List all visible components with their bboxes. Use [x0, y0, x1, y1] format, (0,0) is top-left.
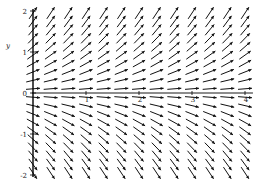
arrowhead-icon — [90, 96, 93, 99]
arrowhead-icon — [214, 96, 217, 99]
arrowhead-icon — [161, 87, 164, 90]
arrowhead-icon — [90, 87, 93, 90]
arrowhead-icon — [231, 96, 234, 99]
y-tick-label: 2 — [23, 8, 27, 16]
arrowhead-icon — [108, 87, 111, 90]
arrowhead-icon — [72, 96, 75, 99]
y-tick-label: 1 — [23, 49, 27, 57]
arrowhead-icon — [196, 87, 199, 90]
arrowhead-icon — [125, 87, 128, 90]
y-axis-label: y — [5, 42, 11, 50]
arrowhead-icon — [178, 96, 181, 99]
arrowhead-icon — [55, 87, 58, 90]
arrowhead-icon — [178, 87, 181, 90]
arrowhead-icon — [214, 87, 217, 90]
arrowhead-icon — [143, 87, 146, 90]
arrowhead-icon — [161, 96, 164, 99]
arrowhead-icon — [249, 87, 252, 90]
direction-field-plot: 1234-2-1012y — [0, 0, 254, 183]
arrowhead-icon — [231, 87, 234, 90]
y-tick-label: 0 — [23, 90, 27, 98]
arrowhead-icon — [125, 96, 128, 99]
x-tick-label: 3 — [191, 96, 195, 104]
arrowhead-icon — [72, 87, 75, 90]
x-tick-label: 2 — [138, 96, 142, 104]
arrowhead-icon — [37, 87, 40, 90]
x-tick-label: 4 — [244, 96, 249, 104]
y-tick-label: -1 — [20, 131, 27, 139]
x-tick-label: 1 — [85, 96, 89, 104]
arrowhead-icon — [108, 96, 111, 99]
arrowhead-icon — [249, 96, 252, 99]
tick-labels: 1234-2-1012y — [5, 8, 249, 180]
arrowhead-icon — [55, 96, 58, 99]
arrowhead-icon — [37, 96, 40, 99]
y-tick-label: -2 — [20, 172, 27, 180]
arrowhead-icon — [143, 96, 146, 99]
arrowhead-icon — [196, 96, 199, 99]
